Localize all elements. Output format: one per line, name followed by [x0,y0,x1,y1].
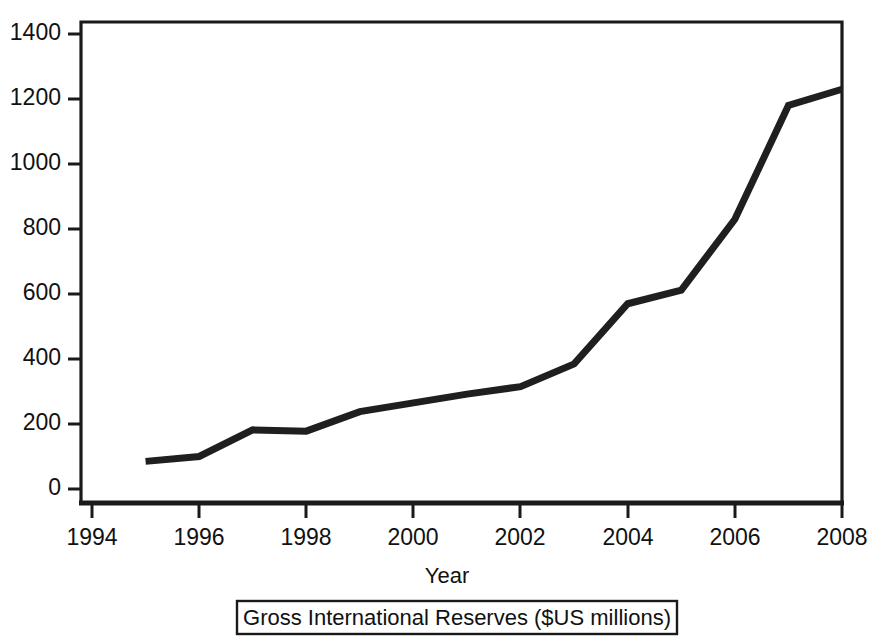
y-axis-ticks [68,34,81,489]
y-tick-label: 1000 [10,149,61,175]
x-tick-label: 1996 [173,524,224,550]
x-tick-label: 2008 [816,524,867,550]
data-series-line [146,89,842,461]
x-axis-tick-labels: 1994 1996 1998 2000 2002 2004 2006 2008 [66,524,867,550]
caption-label: Gross International Reserves ($US millio… [243,605,671,630]
x-tick-label: 1998 [280,524,331,550]
x-axis-title: Year [425,563,469,588]
y-tick-label: 0 [48,474,61,500]
x-tick-label: 1994 [66,524,117,550]
y-tick-label: 600 [23,279,61,305]
x-tick-label: 2000 [387,524,438,550]
y-tick-label: 400 [23,344,61,370]
x-tick-label: 2004 [602,524,653,550]
x-tick-label: 2006 [709,524,760,550]
x-tick-label: 2002 [494,524,545,550]
plot-frame [81,22,842,503]
y-tick-label: 200 [23,409,61,435]
y-tick-label: 1400 [10,19,61,45]
line-chart: 0 200 400 600 800 1000 1200 1400 1994 19… [0,0,875,644]
y-axis-tick-labels: 0 200 400 600 800 1000 1200 1400 [10,19,61,500]
chart-page: 0 200 400 600 800 1000 1200 1400 1994 19… [0,0,875,644]
y-tick-label: 800 [23,214,61,240]
y-tick-label: 1200 [10,84,61,110]
